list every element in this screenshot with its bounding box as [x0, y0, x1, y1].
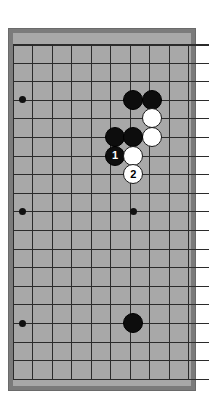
go-stone-black[interactable] [142, 90, 162, 110]
star-lower-left-icon [19, 320, 26, 327]
stone-move-number: 2 [130, 168, 136, 179]
grid-line-vertical [71, 44, 72, 380]
go-stone-white-move-2[interactable]: 2 [123, 164, 143, 184]
grid-line-vertical [13, 44, 14, 380]
go-stone-white[interactable] [142, 127, 162, 147]
go-stone-white[interactable] [123, 146, 143, 166]
go-stone-black[interactable] [123, 90, 143, 110]
star-middle-left-icon [19, 208, 26, 215]
grid-line-vertical [188, 44, 189, 380]
grid-line-vertical [169, 44, 170, 380]
star-upper-left-icon [19, 96, 26, 103]
go-stone-black[interactable] [123, 313, 143, 333]
go-board-surface[interactable]: 12 [13, 33, 191, 386]
grid-line-vertical [32, 44, 33, 380]
diagram-canvas: 12 [0, 0, 211, 419]
grid-line-vertical [91, 44, 92, 380]
stone-move-number: 1 [112, 150, 118, 161]
grid-line-vertical [110, 44, 111, 380]
go-stone-black[interactable] [105, 127, 125, 147]
star-center-icon [130, 208, 137, 215]
go-stone-white[interactable] [142, 108, 162, 128]
go-stone-black[interactable] [123, 127, 143, 147]
go-stone-black-move-1[interactable]: 1 [105, 146, 125, 166]
grid-line-vertical [52, 44, 53, 380]
